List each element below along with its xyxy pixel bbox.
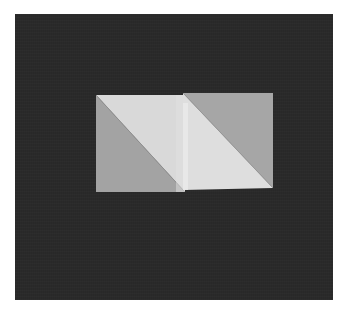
left-quilt-block (96, 95, 185, 192)
half-square-triangle-left-icon (96, 95, 185, 192)
half-square-triangle-right-icon (183, 93, 273, 190)
right-quilt-block (183, 93, 273, 190)
image-description: Photograph of two half-square triangle q… (0, 0, 1, 1)
